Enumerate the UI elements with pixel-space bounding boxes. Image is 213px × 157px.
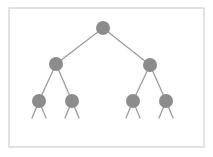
tree-node-l (49, 57, 63, 71)
tree-node-lr (65, 94, 79, 108)
tree-node-r (143, 58, 157, 72)
tree-node-rr (159, 94, 173, 108)
tree-node-rl (126, 94, 140, 108)
tree-node-ll (32, 94, 46, 108)
binary-tree-diagram (0, 0, 213, 157)
tree-node-root (96, 21, 110, 35)
